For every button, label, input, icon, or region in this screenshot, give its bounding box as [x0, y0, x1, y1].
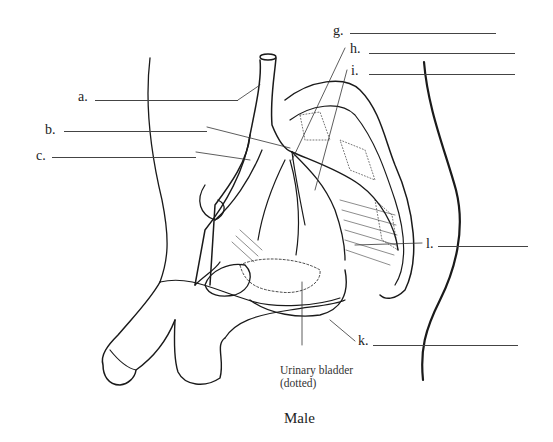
sacrum-texture [300, 112, 330, 140]
label-b: b. [45, 123, 56, 137]
label-l: l. [426, 237, 433, 251]
iliac-branch [215, 150, 262, 220]
diagram-title: Male [284, 410, 315, 427]
answer-blank-k[interactable] [373, 345, 518, 346]
sacrum-texture-2 [340, 140, 375, 180]
bladder-caption: Urinary bladder (dotted) [280, 364, 353, 390]
pelvic-floor-muscles [232, 200, 397, 265]
label-a: a. [78, 90, 88, 104]
label-c: c. [36, 149, 46, 163]
sacrum-texture-3 [375, 200, 398, 250]
answer-blank-l[interactable] [438, 246, 528, 247]
answer-blank-h[interactable] [369, 53, 515, 54]
scrotum-outline [174, 320, 225, 384]
answer-blank-g[interactable] [350, 33, 496, 34]
answer-blank-i[interactable] [369, 74, 515, 75]
aorta-cross-section [260, 54, 276, 60]
bladder-caption-line2: (dotted) [280, 377, 353, 390]
label-g: g. [333, 24, 344, 38]
aorta-right [271, 58, 292, 152]
sacrum-inner [290, 106, 404, 285]
answer-blank-a[interactable] [95, 100, 238, 101]
answer-blank-c[interactable] [52, 157, 196, 158]
penis-glans [110, 350, 136, 370]
ductus-deferens [160, 280, 340, 305]
bladder-dotted [240, 259, 320, 293]
internal-iliac-2 [292, 152, 345, 260]
bladder-caption-line1: Urinary bladder [280, 364, 353, 377]
abdomen-outline [148, 58, 167, 282]
internal-iliac [292, 152, 398, 250]
external-iliac [195, 135, 250, 285]
label-i: i. [351, 64, 358, 78]
sacrum-outer [285, 81, 414, 298]
vesical-branch-2 [290, 160, 298, 255]
penis-outline [102, 282, 175, 385]
answer-blank-b[interactable] [64, 131, 207, 132]
vesical-branch [258, 160, 285, 240]
label-k: k. [358, 334, 369, 348]
prostate [205, 264, 250, 296]
label-h: h. [350, 42, 361, 56]
back-outline [422, 62, 460, 380]
pelvis-anatomy-illustration [0, 0, 553, 442]
leader-lines [196, 48, 422, 345]
